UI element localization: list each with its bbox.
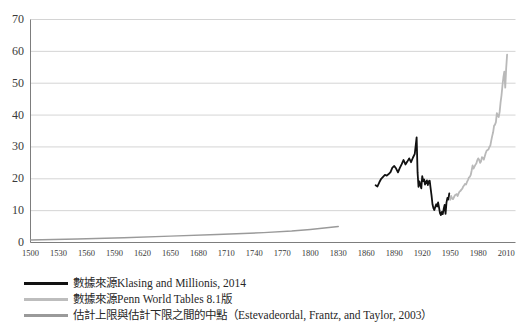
series-line-1: [450, 55, 507, 200]
x-tick-label: 1500: [16, 248, 46, 258]
chart-plot-area: 010203040506070 150015301560159016201650…: [0, 0, 524, 272]
series-line-2: [31, 227, 339, 240]
legend-item-label: 數據來源Klasing and Millionis, 2014: [73, 277, 246, 290]
x-tick-label: 1890: [379, 248, 409, 258]
gridlines-group: [31, 20, 516, 211]
axis-lines-group: [31, 20, 516, 243]
legend-item[interactable]: 數據來源Klasing and Millionis, 2014: [24, 276, 246, 291]
x-tick-label: 1710: [211, 248, 241, 258]
y-tick-label: 40: [0, 108, 24, 123]
x-tick-label: 1650: [155, 248, 185, 258]
x-tick-label: 1980: [463, 248, 493, 258]
y-tick-label: 20: [0, 171, 24, 186]
x-tick-label: 1620: [127, 248, 157, 258]
y-tick-label: 50: [0, 76, 24, 91]
legend-color-swatch: [24, 298, 68, 302]
y-tick-label: 10: [0, 203, 24, 218]
y-tick-label: 30: [0, 139, 24, 154]
legend-item-label: 估計上限與估計下限之間的中點（Estevadeordal, Frantz, an…: [73, 309, 432, 322]
chart-legend: 數據來源Klasing and Millionis, 2014數據來源Penn …: [0, 276, 524, 333]
x-tick-label: 2010: [491, 248, 521, 258]
x-tick-label: 1800: [295, 248, 325, 258]
x-tick-label: 1770: [267, 248, 297, 258]
x-tick-label: 1680: [183, 248, 213, 258]
y-tick-label: 60: [0, 44, 24, 59]
x-tick-label: 1560: [71, 248, 101, 258]
x-tick-label: 1920: [407, 248, 437, 258]
x-tick-label: 1740: [239, 248, 269, 258]
chart-figure: 010203040506070 150015301560159016201650…: [0, 0, 524, 333]
legend-item-label: 數據來源Penn World Tables 8.1版: [73, 293, 232, 306]
y-tick-label: 70: [0, 12, 24, 27]
legend-color-swatch: [24, 314, 68, 318]
x-tick-label: 1860: [351, 248, 381, 258]
x-tick-label: 1830: [323, 248, 353, 258]
x-tick-label: 1530: [43, 248, 73, 258]
legend-item[interactable]: 估計上限與估計下限之間的中點（Estevadeordal, Frantz, an…: [24, 308, 432, 323]
legend-color-swatch: [24, 282, 68, 286]
chart-svg: [0, 0, 524, 272]
x-tick-label: 1950: [435, 248, 465, 258]
series-line-0: [376, 137, 450, 215]
x-tick-label: 1590: [99, 248, 129, 258]
legend-item[interactable]: 數據來源Penn World Tables 8.1版: [24, 292, 232, 307]
